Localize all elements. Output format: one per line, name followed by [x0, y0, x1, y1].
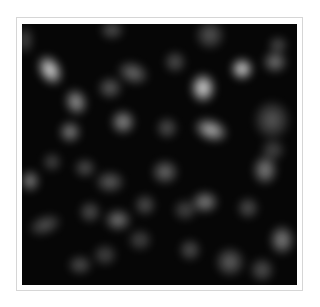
blob: [92, 243, 118, 266]
blob: [230, 57, 253, 80]
blob: [110, 109, 136, 135]
blob-texture-image: [22, 24, 297, 285]
blob: [190, 72, 216, 103]
blob: [104, 208, 133, 231]
blob: [262, 50, 288, 73]
blob: [67, 255, 93, 276]
blob: [249, 257, 275, 283]
blob: [73, 158, 96, 179]
blob: [151, 159, 180, 185]
blob: [97, 76, 123, 99]
blob: [58, 120, 81, 143]
blob: [127, 228, 153, 251]
blob: [42, 152, 63, 173]
blob: [172, 198, 198, 221]
blob: [163, 50, 186, 73]
blob: [252, 154, 278, 185]
blob: [178, 238, 201, 261]
blob: [214, 246, 245, 277]
blob: [155, 116, 178, 139]
blob: [133, 193, 156, 216]
blob: [78, 200, 101, 223]
blob: [94, 170, 125, 193]
blob: [236, 196, 259, 219]
blob: [269, 224, 295, 255]
blob: [253, 99, 292, 141]
blob: [268, 36, 289, 54]
blob-field: [22, 24, 297, 285]
